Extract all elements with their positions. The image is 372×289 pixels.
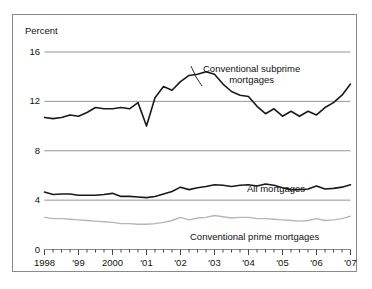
y-tick-label-4: 4 bbox=[18, 195, 40, 205]
y-tick-label-0: 0 bbox=[18, 245, 40, 255]
y-tick-label-16: 16 bbox=[18, 47, 40, 57]
series-label-subprime-line2: mortgages bbox=[203, 74, 300, 85]
chart-plot-area bbox=[0, 0, 372, 289]
chart-figure: Percent 1612840 1998'992000'01'02'03'04'… bbox=[0, 0, 372, 289]
x-tick-label-2007: '07 bbox=[331, 258, 371, 268]
y-axis-title: Percent bbox=[25, 26, 58, 36]
series-label-subprime: Conventional subprime mortgages bbox=[203, 63, 300, 85]
subprime-leader-line bbox=[191, 66, 202, 86]
y-tick-label-8: 8 bbox=[18, 146, 40, 156]
series-label-subprime-line1: Conventional subprime bbox=[203, 63, 300, 74]
annotation-leader-lines bbox=[191, 66, 202, 86]
series-label-all-mortgages: All mortgages bbox=[247, 183, 305, 194]
data-series-group bbox=[45, 72, 351, 224]
gridlines-group bbox=[45, 52, 351, 250]
series-line-2 bbox=[45, 216, 351, 225]
series-label-prime: Conventional prime mortgages bbox=[190, 231, 319, 242]
y-tick-label-12: 12 bbox=[18, 96, 40, 106]
xaxis-ticks-group bbox=[45, 250, 351, 256]
